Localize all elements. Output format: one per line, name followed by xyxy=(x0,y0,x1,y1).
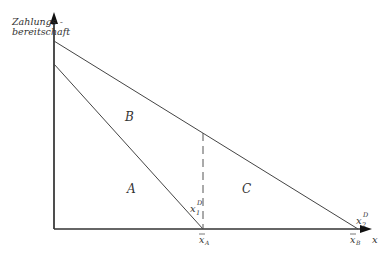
tick-label-xb-sub: B xyxy=(355,239,361,246)
region-label-c: C xyxy=(242,182,251,196)
curve-label-x1d-sub: 1 xyxy=(196,209,200,217)
demand-curve-2 xyxy=(54,41,358,229)
demand-diagram: Zahlungs - bereitschaft x B A C x 1 D x … xyxy=(0,0,392,254)
region-label-a: A xyxy=(126,182,136,196)
curve-label-x2d-sup: D xyxy=(362,211,369,219)
curve-label-x1d-sup: D xyxy=(196,199,203,207)
region-label-b: B xyxy=(124,110,134,124)
demand-curve-1 xyxy=(54,64,203,229)
y-axis-label-line2: bereitschaft xyxy=(12,26,70,37)
curve-label-x2d-sub: 2 xyxy=(361,221,366,229)
tick-label-xa-sub: A xyxy=(204,239,210,246)
x-axis-label: x xyxy=(372,234,378,245)
